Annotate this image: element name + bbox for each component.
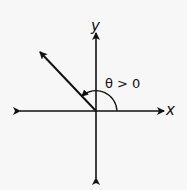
angle-diagram: y x θ > 0 bbox=[0, 0, 187, 190]
y-axis-label: y bbox=[91, 19, 100, 34]
angle-label: θ > 0 bbox=[105, 77, 140, 90]
terminal-ray bbox=[40, 52, 96, 111]
x-axis-label: x bbox=[166, 103, 175, 118]
